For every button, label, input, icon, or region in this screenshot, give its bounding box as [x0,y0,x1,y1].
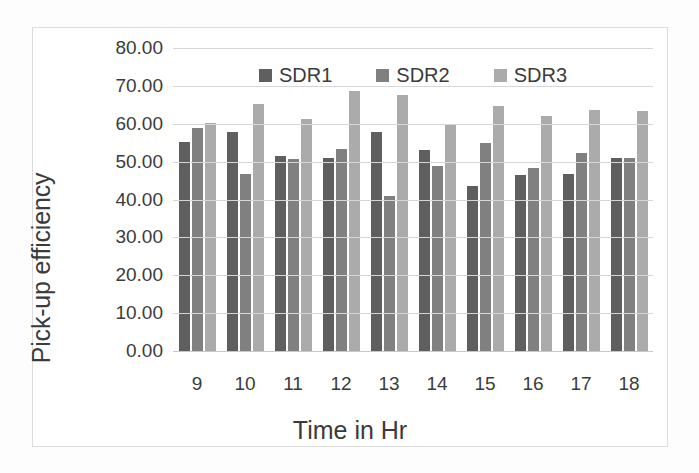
bar-sdr2-17[interactable] [576,153,587,351]
bar-sdr1-17[interactable] [563,174,574,351]
bar-sdr3-18[interactable] [637,111,648,352]
y-axis-title: Pick-up efficiency [27,148,56,388]
bar-sdr3-17[interactable] [589,110,600,351]
bar-sdr3-12[interactable] [349,91,360,351]
bar-sdr1-11[interactable] [275,156,286,351]
bar-sdr2-13[interactable] [384,196,395,351]
legend-item[interactable]: SDR1 [259,65,332,85]
scanned-page: Pick-up efficiency 80.0070.0060.0050.004… [0,0,699,473]
legend-swatch-icon [494,69,507,82]
y-axis-tick-label: 10.00 [115,302,163,324]
y-axis-tick-label: 40.00 [115,189,163,211]
legend-swatch-icon [376,69,389,82]
x-axis-tick-label: 11 [269,373,317,395]
y-axis-tick-labels: 80.0070.0060.0050.0040.0030.0020.0010.00… [95,48,169,351]
y-axis-tick-label: 50.00 [115,151,163,173]
bar-sdr2-12[interactable] [336,149,347,351]
x-axis-tick-labels: 9101112131415161718 [173,373,653,395]
bar-sdr2-15[interactable] [480,143,491,351]
bar-sdr1-13[interactable] [371,132,382,351]
y-axis-tick-label: 0.00 [126,340,163,362]
bar-sdr1-9[interactable] [179,142,190,351]
gridline [173,237,653,238]
bar-sdr3-11[interactable] [301,119,312,351]
plot-canvas: SDR1SDR2SDR3 [173,48,653,351]
bar-sdr3-15[interactable] [493,106,504,351]
bar-sdr1-16[interactable] [515,175,526,351]
y-axis-tick-label: 30.00 [115,226,163,248]
x-axis-tick-label: 13 [365,373,413,395]
y-axis-tick-label: 60.00 [115,113,163,135]
bar-sdr1-15[interactable] [467,186,478,351]
y-axis-tick-label: 80.00 [115,37,163,59]
x-axis-tick-label: 10 [221,373,269,395]
gridline [173,275,653,276]
axis-baseline [173,351,653,352]
gridline [173,48,653,49]
bar-sdr2-18[interactable] [624,158,635,351]
x-axis-tick-label: 9 [173,373,221,395]
bar-sdr1-12[interactable] [323,158,334,351]
bar-sdr1-14[interactable] [419,150,430,351]
legend-item[interactable]: SDR2 [376,65,449,85]
gridline [173,86,653,87]
gridline [173,200,653,201]
legend-item[interactable]: SDR3 [494,65,567,85]
x-axis-tick-label: 15 [461,373,509,395]
x-axis-tick-label: 17 [557,373,605,395]
bar-sdr3-16[interactable] [541,116,552,351]
gridline [173,313,653,314]
x-axis-tick-label: 18 [605,373,653,395]
legend-label: SDR1 [279,65,332,85]
y-axis-tick-label: 20.00 [115,264,163,286]
x-axis-tick-label: 12 [317,373,365,395]
legend-label: SDR3 [514,65,567,85]
chart-legend: SDR1SDR2SDR3 [173,65,653,85]
legend-swatch-icon [259,69,272,82]
x-axis-tick-label: 14 [413,373,461,395]
bar-sdr2-16[interactable] [528,168,539,351]
gridline [173,162,653,163]
bar-sdr1-18[interactable] [611,158,622,351]
x-axis-title: Time in Hr [33,416,667,445]
gridline [173,124,653,125]
bar-sdr2-14[interactable] [432,166,443,351]
bar-sdr2-11[interactable] [288,159,299,351]
bar-sdr2-10[interactable] [240,174,251,351]
y-axis-tick-label: 70.00 [115,75,163,97]
bar-sdr1-10[interactable] [227,132,238,351]
chart-container: Pick-up efficiency 80.0070.0060.0050.004… [32,27,668,447]
legend-label: SDR2 [396,65,449,85]
x-axis-tick-label: 16 [509,373,557,395]
